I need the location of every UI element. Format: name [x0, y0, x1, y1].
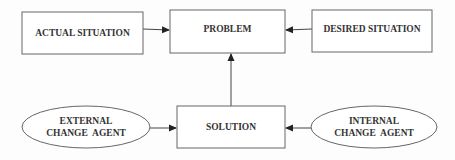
node-external-change-agent: EXTERNAL CHANGE AGENT [22, 106, 150, 148]
node-label-line2: CHANGE AGENT [46, 128, 126, 138]
node-problem: PROBLEM [170, 10, 285, 53]
node-label: SOLUTION [206, 122, 256, 132]
node-actual-situation: ACTUAL SITUATION [22, 12, 143, 54]
node-label-line2: CHANGE AGENT [334, 128, 414, 138]
node-label: ACTUAL SITUATION [35, 28, 130, 38]
node-solution: SOLUTION [177, 106, 285, 148]
node-label-line1: INTERNAL [349, 116, 399, 126]
node-internal-change-agent: INTERNAL CHANGE AGENT [311, 106, 437, 148]
node-label: PROBLEM [203, 24, 251, 34]
edge-desired-to-problem [286, 29, 312, 30]
node-label: DESIRED SITUATION [323, 24, 420, 34]
diagram-svg: ACTUAL SITUATION PROBLEM DESIRED SITUATI… [0, 0, 455, 160]
node-desired-situation: DESIRED SITUATION [312, 10, 432, 52]
edge-actual-to-problem [143, 29, 169, 30]
node-label-line1: EXTERNAL [60, 116, 113, 126]
diagram-canvas: ACTUAL SITUATION PROBLEM DESIRED SITUATI… [0, 0, 455, 160]
